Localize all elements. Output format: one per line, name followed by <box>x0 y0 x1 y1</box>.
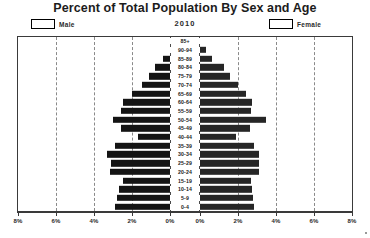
age-group-label: 60-64 <box>170 99 200 105</box>
x-tick <box>94 212 95 216</box>
bar-male <box>111 160 170 166</box>
x-tick <box>56 212 57 216</box>
bar-male <box>155 64 170 70</box>
bar-male <box>121 108 170 114</box>
bar-male <box>163 56 170 62</box>
age-group-label: 70-74 <box>170 82 200 88</box>
bar-male <box>107 151 170 157</box>
corner-artifact <box>365 232 367 234</box>
bar-male <box>123 177 171 183</box>
x-tick-label: 4% <box>89 218 98 224</box>
bar-male <box>110 169 170 175</box>
age-group-label: 40-44 <box>170 134 200 140</box>
age-group-label: 0-4 <box>170 204 200 210</box>
x-tick <box>314 212 315 216</box>
bar-male <box>142 82 171 88</box>
x-tick-label: 4% <box>271 218 280 224</box>
bar-female <box>200 143 254 149</box>
x-tick-label: 8% <box>13 218 22 224</box>
age-group-label: 50-54 <box>170 117 200 123</box>
x-tick-label: 2% <box>127 218 136 224</box>
bar-male <box>117 195 170 201</box>
age-group-label: 35-39 <box>170 143 200 149</box>
age-group-label: 55-59 <box>170 108 200 114</box>
x-tick-label: 8% <box>347 218 356 224</box>
age-group-label: 25-29 <box>170 160 200 166</box>
age-group-label: 30-34 <box>170 151 200 157</box>
population-pyramid-chart: Percent of Total Population By Sex and A… <box>0 0 370 238</box>
bar-female <box>200 203 254 209</box>
x-tick <box>352 212 353 216</box>
age-group-label: 75-79 <box>170 73 200 79</box>
age-group-label: 10-14 <box>170 186 200 192</box>
x-tick <box>18 212 19 216</box>
bar-female <box>200 82 238 88</box>
bar-female <box>200 177 251 183</box>
x-tick <box>276 212 277 216</box>
x-tick <box>200 212 201 216</box>
bar-male <box>115 203 170 209</box>
bar-female <box>200 47 206 53</box>
age-group-label: 85+ <box>170 38 200 44</box>
bar-female <box>200 125 250 131</box>
bar-male <box>138 134 170 140</box>
bar-female <box>200 99 252 105</box>
x-tick-label: 2% <box>233 218 242 224</box>
bar-male <box>121 125 170 131</box>
bar-male <box>115 143 170 149</box>
x-tick <box>170 212 171 216</box>
x-axis-line <box>17 212 353 213</box>
bar-female <box>200 116 266 122</box>
age-group-label: 5-9 <box>170 195 200 201</box>
age-group-label: 45-49 <box>170 125 200 131</box>
x-axis: 8%6%4%2%0%0%2%4%6%8% <box>17 212 353 234</box>
age-group-label: 65-69 <box>170 91 200 97</box>
x-tick-label: 0% <box>165 218 174 224</box>
bar-male <box>113 116 170 122</box>
bar-female <box>200 108 251 114</box>
bar-female <box>200 151 259 157</box>
age-group-label: 80-84 <box>170 64 200 70</box>
x-tick-label: 6% <box>51 218 60 224</box>
chart-title: Percent of Total Population By Sex and A… <box>0 1 370 15</box>
age-group-label: 20-24 <box>170 169 200 175</box>
x-tick <box>132 212 133 216</box>
bar-female <box>200 64 224 70</box>
age-group-label: 85-89 <box>170 56 200 62</box>
bar-male <box>132 90 170 96</box>
bar-female <box>200 186 252 192</box>
bar-female <box>200 160 259 166</box>
plot-area: 85+90-9485-8980-8475-7970-7465-6960-6455… <box>17 36 353 212</box>
age-group-label: 15-19 <box>170 178 200 184</box>
x-tick <box>238 212 239 216</box>
x-tick-label: 6% <box>309 218 318 224</box>
center-label-channel <box>170 37 200 211</box>
bar-female <box>200 134 236 140</box>
bar-female <box>200 195 253 201</box>
bar-male <box>123 99 171 105</box>
bar-male <box>119 186 170 192</box>
bar-female <box>200 169 259 175</box>
age-group-label: 90-94 <box>170 47 200 53</box>
chart-year-label: 2010 <box>0 19 370 28</box>
bar-female <box>200 73 230 79</box>
bar-female <box>200 90 246 96</box>
x-tick-label: 0% <box>195 218 204 224</box>
bar-female <box>200 56 212 62</box>
bar-male <box>149 73 170 79</box>
